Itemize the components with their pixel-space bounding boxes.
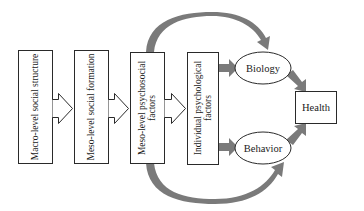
stage-box-meso-psychosocial: Meso-level psychosocial factors bbox=[131, 53, 165, 164]
stage-box-macro: Macro-level social structure bbox=[19, 51, 53, 164]
mediator-label-behavior: Behavior bbox=[244, 143, 283, 154]
mediator-behavior: Behavior bbox=[235, 132, 291, 164]
hollow-arrow-psychosocial-to-individual bbox=[165, 94, 186, 124]
hollow-arrow-macro-to-meso-formation bbox=[53, 94, 73, 124]
stage-label-individual-line2: factors bbox=[203, 95, 213, 121]
outcome-box-health: Health bbox=[296, 92, 337, 124]
mediator-label-biology: Biology bbox=[246, 63, 281, 74]
stage-label-meso-psychosocial-line1: Meso-level psychosocial bbox=[137, 61, 147, 156]
stage-label-meso-psychosocial-line2: factors bbox=[147, 95, 157, 121]
stage-label-meso-formation: Meso-level social formation bbox=[86, 53, 96, 160]
stage-box-meso-formation: Meso-level social formation bbox=[75, 51, 109, 164]
stage-label-macro: Macro-level social structure bbox=[30, 54, 40, 161]
hollow-arrow-meso-formation-to-psychosocial bbox=[109, 94, 129, 124]
stage-box-individual: Individual psychological factors bbox=[188, 53, 219, 165]
stage-label-individual-line1: Individual psychological bbox=[193, 61, 203, 156]
outcome-label-health: Health bbox=[302, 102, 331, 113]
mediator-biology: Biology bbox=[235, 52, 291, 84]
curved-arrow-to-biology bbox=[146, 12, 270, 52]
curved-arrow-to-behavior bbox=[146, 162, 284, 204]
diagram-canvas: Macro-level social structure Meso-level … bbox=[0, 0, 364, 211]
